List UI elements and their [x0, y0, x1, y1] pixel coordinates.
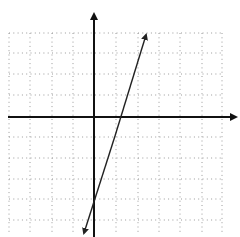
axes [8, 14, 236, 237]
graph-canvas [0, 0, 240, 237]
